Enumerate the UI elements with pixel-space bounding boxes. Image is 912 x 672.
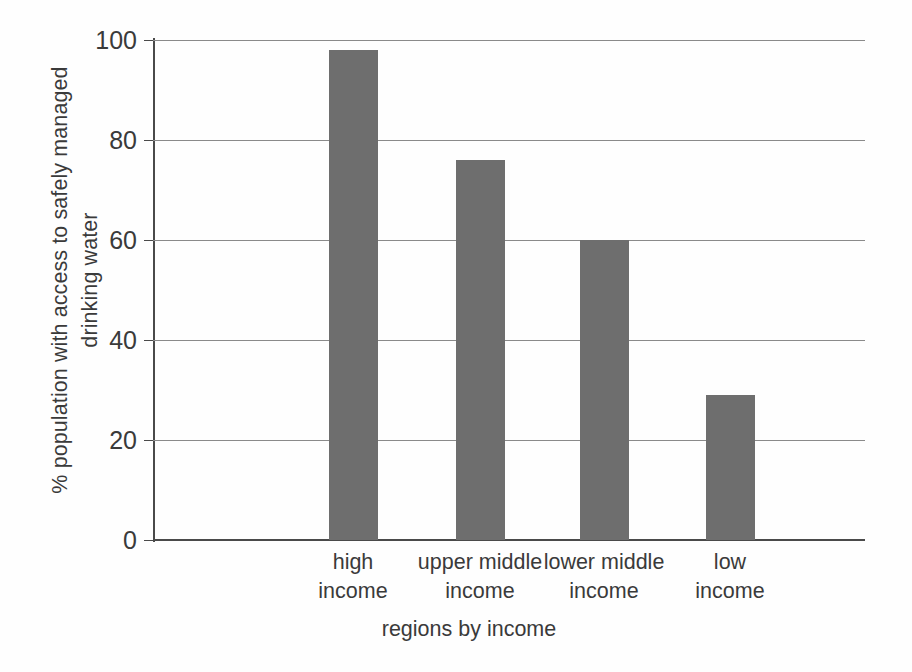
y-axis-title-line-1: % population with access to safely manag… [45,66,75,493]
bar [329,50,378,540]
y-axis-tick-label: 60 [109,226,137,255]
plot-area: 020406080100 [153,40,865,540]
y-axis-tick-label: 20 [109,426,137,455]
y-axis-tick [144,40,153,41]
x-axis-tick-label: lowincome [620,548,840,606]
y-axis-tick-label: 0 [123,526,137,555]
gridline [153,340,865,341]
x-axis-tick-label-line: low [620,548,840,577]
y-axis-tick-label: 80 [109,126,137,155]
gridline [153,240,865,241]
gridline [153,140,865,141]
bar [706,395,755,540]
gridline [153,440,865,441]
y-axis-tick [144,140,153,141]
y-axis-tick-label: 40 [109,326,137,355]
x-axis-title: regions by income [0,617,912,642]
gridline [153,40,865,41]
y-axis-tick-label: 100 [95,26,137,55]
y-axis-tick [144,340,153,341]
bar [580,240,629,540]
y-axis-tick [144,440,153,441]
x-axis-title-text: regions by income [382,617,556,641]
y-axis-tick [144,240,153,241]
y-axis-title: % population with access to safely manag… [0,0,150,560]
x-axis-tick-label-line: income [620,577,840,606]
y-axis-tick [144,540,153,541]
y-axis-title-line-2: drinking water [75,66,105,493]
bar [456,160,505,540]
bar-chart: % population with access to safely manag… [0,0,912,672]
